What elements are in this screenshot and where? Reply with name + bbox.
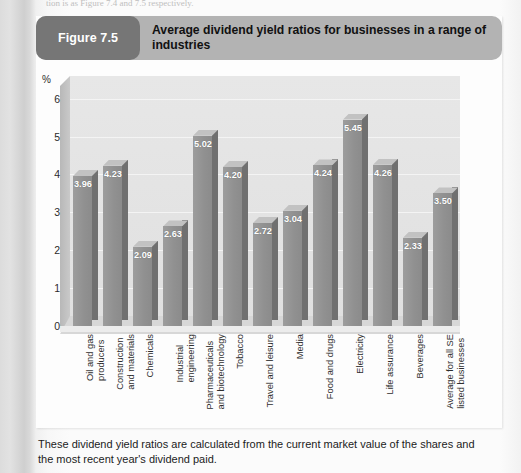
bar-value-label: 2.63 bbox=[164, 229, 182, 239]
x-axis-label-3: Chemicals bbox=[145, 334, 156, 377]
plot-left-depth-wall bbox=[60, 76, 70, 326]
bar-9 bbox=[313, 159, 338, 326]
bar-value-label: 4.26 bbox=[374, 168, 392, 178]
bar-5 bbox=[193, 130, 218, 326]
bar-front-face bbox=[223, 167, 242, 326]
bar-10 bbox=[343, 114, 368, 326]
x-axis-label-1: Oil and gasproducers bbox=[85, 334, 106, 381]
bar-front-face bbox=[313, 165, 332, 326]
x-axis-label-10: Electricity bbox=[355, 334, 366, 374]
x-axis-label-line: Tobacco bbox=[235, 334, 246, 369]
figure-caption: These dividend yield ratios are calculat… bbox=[38, 437, 488, 467]
bar-front-face bbox=[373, 165, 392, 326]
bars-group: 3.964.232.092.635.024.202.723.044.245.45… bbox=[70, 76, 460, 326]
bar-front-face bbox=[163, 226, 182, 326]
bar-front-face bbox=[103, 166, 122, 326]
bar-side-face bbox=[152, 241, 158, 320]
bar-side-face bbox=[392, 159, 398, 320]
figure-number-label: Figure 7.5 bbox=[58, 31, 118, 45]
x-axis-label-line: engineering bbox=[186, 334, 197, 383]
bar-side-face bbox=[272, 217, 278, 320]
x-axis-label-line: and biotechnology bbox=[216, 334, 227, 409]
bar-13 bbox=[433, 187, 458, 326]
bar-value-label: 2.09 bbox=[134, 250, 152, 260]
y-axis-tick-label: 0 bbox=[38, 321, 60, 331]
bar-front-face bbox=[253, 223, 272, 326]
x-axis-label-4: Industrialengineering bbox=[175, 334, 196, 383]
figure-card: Figure 7.5 Average dividend yield ratios… bbox=[36, 16, 502, 428]
x-axis-label-line: Electricity bbox=[355, 334, 366, 374]
x-axis-label-line: Pharmaceuticals bbox=[205, 334, 216, 409]
y-axis-tick-label: 3 bbox=[38, 207, 60, 217]
bar-value-label: 3.04 bbox=[284, 214, 302, 224]
x-axis-label-line: Chemicals bbox=[145, 334, 156, 377]
x-axis-category-labels: Oil and gasproducersConstructionand mate… bbox=[70, 334, 470, 428]
bar-side-face bbox=[302, 205, 308, 320]
bar-1 bbox=[73, 170, 98, 326]
figure-number-pill: Figure 7.5 bbox=[36, 16, 140, 60]
y-axis-tick-label: 5 bbox=[38, 132, 60, 142]
bar-side-face bbox=[452, 187, 458, 320]
bar-value-label: 4.23 bbox=[104, 169, 122, 179]
y-axis-tick-label: 1 bbox=[38, 283, 60, 293]
figure-title: Average dividend yield ratios for busine… bbox=[152, 23, 492, 52]
x-axis-label-6: Tobacco bbox=[235, 334, 246, 369]
plot-floor-front-edge bbox=[60, 326, 460, 332]
x-axis-label-line: Travel and leisure bbox=[265, 334, 276, 408]
x-axis-label-line: Industrial bbox=[175, 334, 186, 383]
bar-side-face bbox=[422, 232, 428, 320]
x-axis-label-line: Beverages bbox=[415, 334, 426, 378]
bar-front-face bbox=[283, 211, 302, 326]
chart-canvas: % 0123456 3.964.232.092.635.024.202.723.… bbox=[36, 60, 502, 428]
bar-side-face bbox=[122, 160, 128, 320]
bar-front-face bbox=[73, 176, 92, 326]
x-axis-label-line: Construction bbox=[115, 334, 126, 390]
x-axis-label-line: listed businesses bbox=[456, 334, 467, 409]
bar-value-label: 3.96 bbox=[74, 179, 92, 189]
bar-value-label: 4.24 bbox=[314, 168, 332, 178]
bar-value-label: 5.02 bbox=[194, 139, 212, 149]
x-axis-label-line: Food and drugs bbox=[325, 334, 336, 399]
y-axis-tick-label: 6 bbox=[38, 94, 60, 104]
x-axis-label-2: Constructionand materials bbox=[115, 334, 136, 390]
bar-6 bbox=[223, 161, 248, 326]
y-axis-tick-label: 2 bbox=[38, 245, 60, 255]
x-axis-label-line: Average for all SE bbox=[445, 334, 456, 409]
bar-side-face bbox=[92, 170, 98, 320]
x-axis-label-line: and materials bbox=[126, 334, 137, 390]
bar-value-label: 5.45 bbox=[344, 123, 362, 133]
bar-front-face bbox=[193, 136, 212, 326]
x-axis-label-13: Average for all SElisted businesses bbox=[445, 334, 466, 409]
x-axis-label-11: Life assurance bbox=[385, 334, 396, 394]
x-axis-label-line: Life assurance bbox=[385, 334, 396, 394]
y-axis-tick-labels: 0123456 bbox=[36, 60, 60, 360]
figure-header-bar: Figure 7.5 Average dividend yield ratios… bbox=[36, 16, 502, 60]
bar-front-face bbox=[403, 238, 422, 326]
x-axis-label-7: Travel and leisure bbox=[265, 334, 276, 408]
x-axis-label-8: Media bbox=[295, 334, 306, 359]
x-axis-label-12: Beverages bbox=[415, 334, 426, 378]
x-axis-label-line: producers bbox=[96, 334, 107, 381]
bar-side-face bbox=[332, 159, 338, 320]
y-axis-tick-label: 4 bbox=[38, 169, 60, 179]
bar-2 bbox=[103, 160, 128, 326]
bar-side-face bbox=[212, 130, 218, 320]
bar-value-label: 4.20 bbox=[224, 170, 242, 180]
bar-value-label: 2.72 bbox=[254, 226, 272, 236]
x-axis-label-9: Food and drugs bbox=[325, 334, 336, 399]
bar-11 bbox=[373, 159, 398, 326]
cropped-body-text-line: tion is as Figure 7.4 and 7.5 respective… bbox=[46, 0, 346, 8]
bar-front-face bbox=[343, 120, 362, 326]
bar-value-label: 2.33 bbox=[404, 241, 422, 251]
bar-side-face bbox=[362, 114, 368, 320]
x-axis-label-line: Media bbox=[295, 334, 306, 359]
bar-side-face bbox=[242, 161, 248, 320]
bar-value-label: 3.50 bbox=[434, 196, 452, 206]
x-axis-label-5: Pharmaceuticalsand biotechnology bbox=[205, 334, 226, 409]
bar-front-face bbox=[433, 193, 452, 326]
x-axis-label-line: Oil and gas bbox=[85, 334, 96, 381]
bar-side-face bbox=[182, 220, 188, 320]
